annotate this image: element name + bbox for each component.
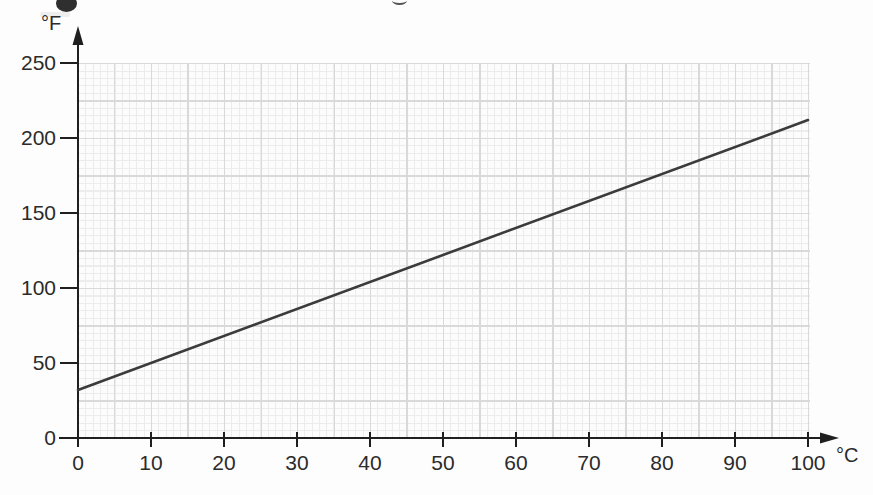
x-tick-label-20: 20 [194, 450, 254, 476]
y-axis-arrowhead-icon [73, 26, 84, 45]
y-tick-marks [60, 63, 79, 438]
conversion-chart: °F °C 250 200 150 100 50 0 0 10 20 30 40… [0, 0, 873, 495]
x-tick-label-70: 70 [559, 450, 619, 476]
x-tick-marks [78, 432, 808, 447]
x-tick-label-100: 100 [778, 450, 838, 476]
y-tick-label-200: 200 [0, 125, 56, 151]
x-tick-label-50: 50 [413, 450, 473, 476]
x-tick-label-40: 40 [340, 450, 400, 476]
x-tick-label-10: 10 [121, 450, 181, 476]
x-tick-label-80: 80 [632, 450, 692, 476]
y-tick-label-150: 150 [0, 200, 56, 226]
y-tick-label-100: 100 [0, 275, 56, 301]
y-tick-label-0: 0 [0, 425, 56, 451]
x-axis-unit-label: °C [836, 444, 858, 467]
x-tick-label-60: 60 [486, 450, 546, 476]
conversion-line-series [78, 120, 808, 390]
x-tick-label-0: 0 [48, 450, 108, 476]
plot-canvas [0, 0, 873, 495]
x-tick-label-90: 90 [705, 450, 765, 476]
y-tick-label-50: 50 [0, 350, 56, 376]
x-tick-label-30: 30 [267, 450, 327, 476]
y-axis-unit-label: °F [41, 12, 61, 35]
y-tick-label-250: 250 [0, 50, 56, 76]
x-axis-arrowhead-icon [820, 433, 839, 444]
